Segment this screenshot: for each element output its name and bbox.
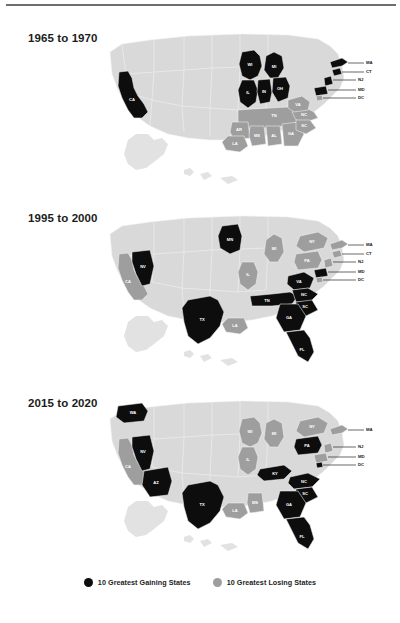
map-label-AR: AR [236, 127, 242, 132]
map-label-CA: CA [129, 97, 135, 102]
map-label-MN: MN [227, 237, 233, 242]
map-2015-2020: WA NV AZ CA TX WI MI IL NY PA KY NC SC G… [92, 389, 392, 567]
map-label-GA: GA [286, 502, 292, 507]
panel-title-2015-2020: 2015 to 2020 [28, 397, 98, 409]
callout-label-NJ: NJ [358, 444, 364, 449]
state-FL [286, 517, 314, 549]
legend-item-losing: 10 Greatest Losing States [213, 578, 317, 587]
map-label-SC: SC [302, 491, 308, 496]
state-MD [314, 453, 328, 463]
callout-label-MA: MA [366, 60, 373, 65]
map-label-WA: WA [130, 410, 137, 415]
callout-label-NJ: NJ [358, 77, 364, 82]
map-label-NY: NY [309, 424, 315, 429]
map-label-GA: GA [286, 315, 292, 320]
map-label-MI: MI [272, 246, 277, 251]
map-label-KY: KY [272, 471, 278, 476]
map-label-PA: PA [304, 258, 309, 263]
map-label-WI: WI [247, 62, 252, 67]
map-label-IL: IL [246, 90, 250, 95]
map-panel-2015-2020: 2015 to 2020 [0, 385, 400, 571]
map-label-NV: NV [140, 449, 146, 454]
state-MD [314, 268, 328, 278]
state-FL [286, 330, 314, 362]
callout-label-DC: DC [358, 277, 364, 282]
map-label-WI: WI [247, 429, 252, 434]
map-label-GA: GA [288, 131, 294, 136]
map-label-OH: OH [277, 86, 283, 91]
callout-label-MD: MD [358, 269, 365, 274]
map-label-LA: LA [232, 323, 238, 328]
map-label-NC: NC [301, 292, 307, 297]
callout-label-CT: CT [366, 251, 372, 256]
map-label-TX: TX [199, 317, 205, 322]
legend-swatch-losing-icon [213, 578, 222, 587]
map-label-NC: NC [301, 112, 307, 117]
map-panel-1995-2000: 1995 to 2000 [0, 200, 400, 386]
map-label-SC: SC [301, 123, 307, 128]
panel-title-1995-2000: 1995 to 2000 [28, 212, 98, 224]
map-label-AL: AL [271, 133, 277, 138]
map-label-NV: NV [140, 264, 146, 269]
state-DC [316, 462, 323, 468]
state-NJ [324, 76, 333, 86]
legend-swatch-gaining-icon [84, 578, 93, 587]
callout-label-DC: DC [358, 462, 364, 467]
state-NJ [324, 258, 333, 268]
map-1965-1970: CA WI MI IL IN OH AR MS AL GA LA TN VA N… [92, 22, 392, 200]
callout-label-DC: DC [358, 95, 364, 100]
callout-label-NJ: NJ [358, 259, 364, 264]
figure-page: 1965 to 1970 [0, 0, 400, 623]
legend-label-gaining: 10 Greatest Gaining States [98, 578, 191, 587]
map-label-IN: IN [262, 89, 266, 94]
map-label-AZ: AZ [153, 480, 159, 485]
legend-label-losing: 10 Greatest Losing States [227, 578, 317, 587]
map-label-VA: VA [296, 279, 301, 284]
map-label-NY: NY [309, 239, 315, 244]
map-label-NC: NC [301, 479, 307, 484]
map-label-TN: TN [264, 298, 270, 303]
state-DC [316, 277, 323, 283]
map-label-VA: VA [295, 102, 300, 107]
state-NJ [324, 443, 333, 453]
map-label-CA: CA [125, 279, 131, 284]
map-label-CA: CA [125, 464, 131, 469]
map-legend: 10 Greatest Gaining States 10 Greatest L… [0, 578, 400, 587]
top-divider [6, 4, 396, 6]
map-label-MS: MS [252, 500, 258, 505]
callout-label-MD: MD [358, 454, 365, 459]
map-1995-2000: CA NV MN TX LA MI IL PA NY TN VA NC SC G… [92, 204, 392, 382]
map-label-MI: MI [272, 64, 277, 69]
callout-label-MA: MA [366, 427, 373, 432]
map-label-IL: IL [246, 457, 250, 462]
map-label-FL: FL [299, 347, 305, 352]
map-label-SC: SC [302, 304, 308, 309]
map-label-TN: TN [271, 113, 277, 118]
map-label-MS: MS [254, 133, 260, 138]
map-label-MI: MI [272, 431, 277, 436]
map-panel-1965-1970: 1965 to 1970 [0, 16, 400, 202]
legend-item-gaining: 10 Greatest Gaining States [84, 578, 191, 587]
map-label-LA: LA [232, 508, 238, 513]
callout-label-MD: MD [358, 87, 365, 92]
map-label-FL: FL [299, 534, 305, 539]
panel-title-1965-1970: 1965 to 1970 [28, 32, 98, 44]
map-label-TX: TX [199, 502, 205, 507]
state-DC [316, 95, 323, 101]
callout-label-CT: CT [366, 69, 372, 74]
state-MD [314, 86, 328, 96]
map-label-PA: PA [304, 443, 309, 448]
map-label-IL: IL [246, 272, 250, 277]
callout-label-MA: MA [366, 242, 373, 247]
map-label-LA: LA [232, 141, 238, 146]
